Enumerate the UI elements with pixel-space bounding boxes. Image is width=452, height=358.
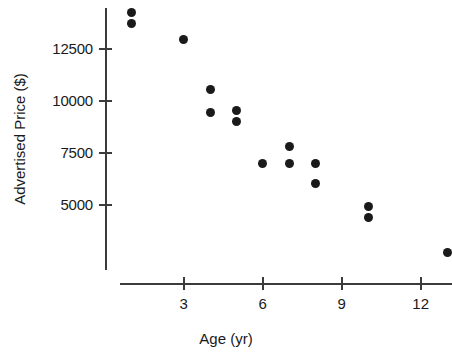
- y-axis-line: [105, 8, 107, 270]
- y-axis-tick: [99, 204, 112, 206]
- scatter-plot-figure: 500075001000012500 36912 Advertised Pric…: [0, 0, 452, 358]
- x-axis-tick-label: 9: [327, 296, 357, 311]
- data-point: [206, 108, 215, 117]
- data-point: [443, 248, 452, 257]
- data-point: [364, 202, 373, 211]
- data-point: [127, 8, 136, 17]
- data-point: [232, 117, 241, 126]
- data-point: [127, 19, 136, 28]
- y-axis-tick-label: 12500: [35, 41, 93, 56]
- x-axis-title: Age (yr): [0, 330, 452, 347]
- y-axis-tick-label: 5000: [35, 197, 93, 212]
- x-axis-tick: [341, 277, 343, 290]
- x-axis-tick: [420, 277, 422, 290]
- data-point: [311, 179, 320, 188]
- x-axis-tick: [183, 277, 185, 290]
- data-point: [364, 213, 373, 222]
- data-point: [285, 159, 294, 168]
- y-axis-tick-label: 10000: [35, 93, 93, 108]
- data-point: [258, 159, 267, 168]
- x-axis-line: [120, 283, 452, 285]
- x-axis-tick: [262, 277, 264, 290]
- x-axis-tick-label: 6: [248, 296, 278, 311]
- y-axis-title: Advertised Price ($): [11, 29, 28, 249]
- data-point: [311, 159, 320, 168]
- y-axis-tick-label: 7500: [35, 145, 93, 160]
- data-point: [285, 142, 294, 151]
- x-axis-tick-label: 12: [406, 296, 436, 311]
- y-axis-tick: [99, 152, 112, 154]
- data-point: [206, 85, 215, 94]
- data-point: [232, 106, 241, 115]
- data-point: [179, 35, 188, 44]
- x-axis-tick-label: 3: [169, 296, 199, 311]
- y-axis-title-wrapper: Advertised Price ($): [11, 29, 33, 249]
- y-axis-tick: [99, 48, 112, 50]
- y-axis-tick: [99, 100, 112, 102]
